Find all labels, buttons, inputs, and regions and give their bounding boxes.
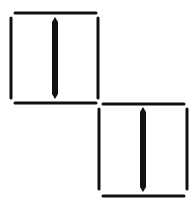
cell-1 [11, 13, 98, 103]
cell-1-vertical-bar [52, 17, 58, 99]
cell-2-vertical-bar [140, 107, 146, 192]
cell-2 [99, 104, 187, 196]
diagram-canvas [0, 0, 193, 207]
